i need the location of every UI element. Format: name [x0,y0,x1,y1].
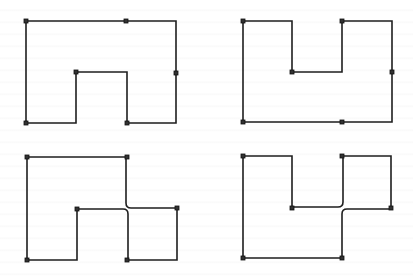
panel-top-left-notch-bottom [24,19,178,125]
vertex-marker-icon [125,258,129,262]
vertex-marker-icon [174,71,178,75]
vertex-marker-icon [290,70,294,74]
vertex-marker-icon [290,206,294,210]
vertex-marker-icon [241,19,245,23]
vertex-marker-icon [340,256,344,260]
vertex-marker-icon [74,70,78,74]
vertex-marker-icon [241,256,245,260]
vertex-marker-icon [125,121,129,125]
panel-bottom-left-self-touching [25,155,179,262]
vertex-marker-icon [241,120,245,124]
vertex-marker-icon [25,155,29,159]
vertex-marker-icon [390,70,394,74]
panel-top-right-notch-top [241,19,394,124]
panel-bottom-right-self-touching [241,154,393,260]
polygon-outline [26,21,176,123]
vertex-marker-icon [125,155,129,159]
vertex-marker-icon [241,154,245,158]
vertex-marker-icon [124,19,128,23]
vertex-marker-icon [175,206,179,210]
vertex-marker-icon [25,258,29,262]
vertex-marker-icon [24,121,28,125]
vertex-marker-icon [340,154,344,158]
polygon-outline [27,157,177,260]
vertex-marker-icon [340,19,344,23]
vertex-marker-icon [389,206,393,210]
polygon-figure [0,0,413,278]
polygon-outline [243,156,391,258]
polygon-outline [243,21,392,122]
vertex-marker-icon [24,19,28,23]
vertex-marker-icon [75,207,79,211]
vertex-marker-icon [340,120,344,124]
